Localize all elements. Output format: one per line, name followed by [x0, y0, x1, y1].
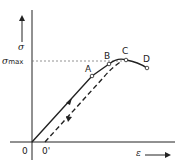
y-axis-label: σ [18, 43, 24, 52]
sigma-max-sub: max [8, 58, 23, 66]
point-b-label: B [104, 52, 110, 61]
point-c-label: C [122, 47, 128, 56]
origin-label: 0 [22, 147, 28, 156]
point-a-label: A [85, 65, 91, 74]
point-c-marker [124, 58, 128, 62]
point-d-marker [145, 66, 149, 70]
sigma-max-label: σmax [2, 57, 23, 66]
downward-arrow-icon [66, 116, 72, 122]
point-a-marker [90, 74, 94, 78]
shifted-origin-label: 0' [42, 147, 50, 156]
x-axis-label: ε [136, 149, 141, 158]
point-b-marker [107, 62, 111, 66]
stress-strain-diagram [0, 0, 180, 165]
point-d-label: D [143, 55, 150, 64]
reload-curve [45, 61, 122, 142]
